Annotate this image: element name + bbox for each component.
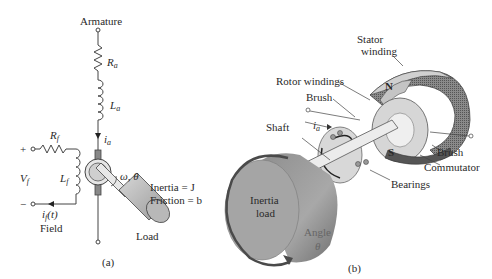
inertia-label: Inertia = J: [150, 181, 195, 193]
inertia-load-label-2: load: [256, 207, 275, 219]
inertia-load-label-1: Inertia: [250, 194, 279, 206]
load-label: Load: [136, 230, 159, 242]
lf-label: Lf: [60, 172, 68, 188]
commutator-label: Commutator: [424, 161, 480, 173]
angle-label: Angle: [304, 226, 331, 238]
stator-winding-label-2: winding: [361, 45, 397, 57]
south-pole-label: S: [388, 146, 394, 158]
bearings-label: Bearings: [391, 178, 430, 190]
rf-label: Rf: [50, 129, 59, 145]
north-pole-label: N: [385, 80, 393, 92]
caption-b: (b): [348, 262, 361, 274]
motor-diagram: [0, 0, 492, 279]
minus-terminal: −: [20, 198, 26, 210]
caption-a: (a): [102, 256, 114, 268]
shaft-label: Shaft: [266, 121, 289, 133]
armature-label: Armature: [80, 15, 122, 27]
friction-label: Friction = b: [150, 194, 202, 206]
omega-theta-label: ω, θ: [120, 170, 139, 182]
inertia-load-cylinder: [225, 153, 338, 265]
armature-circuit: [94, 28, 103, 244]
ia-label-a: ia: [104, 133, 111, 149]
plus-terminal: +: [20, 143, 26, 155]
theta-label: θ: [315, 240, 320, 252]
ra-label: Ra: [107, 56, 118, 72]
la-label: La: [110, 99, 120, 115]
field-label: Field: [40, 222, 63, 234]
vf-label: Vf: [20, 172, 29, 188]
ia-label-b: ia: [313, 119, 320, 135]
rotor-windings-label: Rotor windings: [276, 75, 344, 87]
brush-bottom-label: Brush: [437, 146, 463, 158]
stator-winding-label-1: Stator: [357, 33, 383, 45]
field-circuit: [31, 145, 80, 207]
brush-top-label: Brush: [306, 91, 332, 103]
